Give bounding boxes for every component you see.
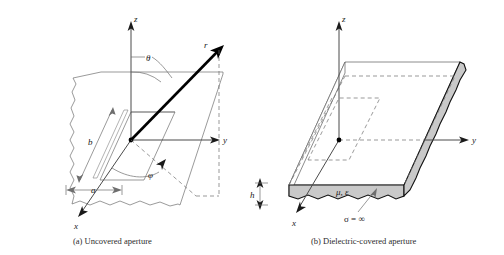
panel-a-caption: (a) Uncovered aperture xyxy=(73,236,152,246)
b-dim-arrow-top-a xyxy=(109,107,116,116)
sigma-label-b: σ = ∞ xyxy=(344,214,365,224)
h-dim-label-b: h xyxy=(250,190,255,200)
y-axis-label-b: y xyxy=(471,135,476,145)
panel-b-caption: (b) Dielectric-covered aperture xyxy=(311,236,416,246)
b-dim-arrow-bottom-a xyxy=(76,174,83,183)
b-dim-line-a xyxy=(80,110,112,180)
origin-dot-b xyxy=(337,138,342,143)
b-dim-label-a: b xyxy=(88,137,93,147)
phi-label-a: φ xyxy=(148,170,153,180)
x-axis-arrow-b xyxy=(296,202,306,214)
theta-leader-a xyxy=(152,57,172,78)
aperture-inner-guide-a xyxy=(93,110,128,178)
z-axis-label-a: z xyxy=(133,14,138,24)
theta-arc-a xyxy=(131,72,161,82)
a-dim-label-a: a xyxy=(91,185,96,195)
theta-label-a: θ xyxy=(146,53,151,63)
panel-b-graphic: z y x h μ, ε σ = ∞ xyxy=(250,14,476,228)
x-axis-arrow-a xyxy=(78,206,88,217)
radial-vector-label-a: r xyxy=(204,40,208,50)
panel-a-graphic: z y x r θ φ b xyxy=(66,14,227,231)
z-axis-label-b: z xyxy=(341,14,346,24)
figure-svg: z y x r θ φ b xyxy=(0,0,504,255)
x-axis-label-b: x xyxy=(291,218,296,228)
x-axis-line-a xyxy=(83,140,131,210)
phi-projection-a xyxy=(131,140,196,196)
phi-arrow-a xyxy=(156,159,166,170)
figure-canvas: z y x r θ φ b xyxy=(0,0,504,255)
material-label-b: μ, ε xyxy=(335,187,349,197)
y-axis-label-a: y xyxy=(222,135,227,145)
x-axis-label-a: x xyxy=(73,221,78,231)
